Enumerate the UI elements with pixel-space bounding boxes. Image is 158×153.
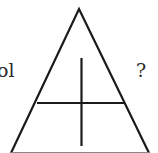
triangle-outline <box>11 9 149 153</box>
triangle-cross-diagram <box>0 0 158 153</box>
